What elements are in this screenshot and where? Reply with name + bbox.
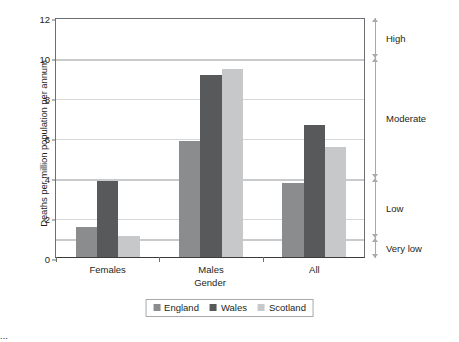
risk-band-very-low: Very low bbox=[371, 238, 459, 258]
risk-band-label: High bbox=[386, 33, 406, 44]
double-arrow-icon bbox=[371, 178, 380, 238]
risk-band-moderate: Moderate bbox=[371, 58, 459, 178]
risk-band-high: High bbox=[371, 18, 459, 58]
risk-band-label: Very low bbox=[386, 243, 422, 254]
risk-band-low: Low bbox=[371, 178, 459, 238]
double-arrow-icon bbox=[371, 238, 380, 258]
figure-caption: ... bbox=[0, 330, 459, 341]
double-arrow-icon bbox=[371, 18, 380, 58]
risk-band-label: Low bbox=[386, 203, 403, 214]
chart-figure: Deaths per million population per annum … bbox=[0, 0, 459, 342]
risk-band-annotations: HighModerateLowVery low bbox=[0, 0, 459, 342]
double-arrow-icon bbox=[371, 58, 380, 178]
risk-band-label: Moderate bbox=[386, 113, 426, 124]
